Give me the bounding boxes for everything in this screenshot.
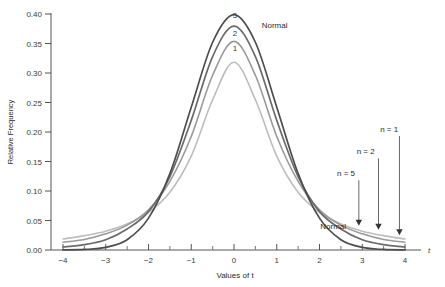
annotation-label-n-5: n = 5 [337, 169, 356, 178]
y-tick-label: 0.15 [26, 158, 42, 167]
y-tick-label: 0.40 [26, 10, 42, 19]
annotation-arrow-head [356, 220, 362, 226]
x-axis-end-label: t [428, 246, 431, 255]
x-tick-label: −2 [144, 256, 154, 265]
x-tick-label: 0 [232, 256, 237, 265]
y-tick-label: 0.35 [26, 40, 42, 49]
annotation-arrow-head [375, 224, 381, 230]
y-tick-label: 0.05 [26, 217, 42, 226]
x-tick-label: −3 [101, 256, 111, 265]
x-tick-label: 3 [360, 256, 365, 265]
y-tick-label: 0.00 [26, 246, 42, 255]
y-tick-label: 0.30 [26, 69, 42, 78]
normal-label-tail: Normal [320, 222, 346, 231]
y-tick-label: 0.20 [26, 128, 42, 137]
curve-n-1 [63, 62, 405, 239]
x-tick-label: −4 [58, 256, 68, 265]
x-tick-label: 1 [275, 256, 280, 265]
x-tick-label: 4 [403, 256, 408, 265]
y-tick-label: 0.10 [26, 187, 42, 196]
y-tick-label: 0.25 [26, 99, 42, 108]
t-distribution-chart: 0.000.050.100.150.200.250.300.350.40−4−3… [0, 0, 445, 287]
annotation-arrow-head [396, 229, 402, 235]
curve-peak-label-1: 1 [233, 44, 238, 53]
annotation-label-n-2: n = 2 [357, 147, 376, 156]
x-tick-label: −1 [187, 256, 197, 265]
x-tick-label: 2 [317, 256, 322, 265]
chart-canvas: 0.000.050.100.150.200.250.300.350.40−4−3… [0, 0, 445, 287]
x-axis-title: Values of t [216, 271, 254, 280]
annotation-label-n-1: n = 1 [380, 125, 399, 134]
y-axis-title: Relative Frequency [6, 99, 15, 164]
curve-peak-label-5: 5 [233, 11, 238, 20]
curve-peak-label-2: 2 [233, 29, 238, 38]
curve-n-5 [63, 26, 405, 247]
normal-label-top: Normal [262, 21, 288, 30]
curve-n-2 [63, 41, 405, 242]
